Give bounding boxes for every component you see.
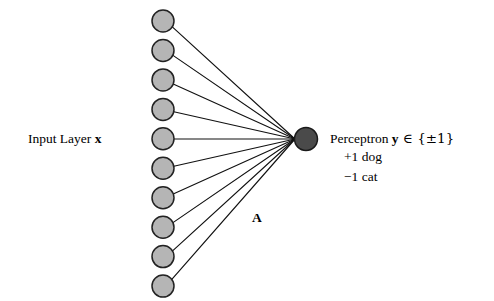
output-node-y — [295, 128, 318, 151]
input-node-x4 — [152, 98, 174, 120]
edge-x4-to-y — [174, 112, 295, 139]
input-layer-label: Input Layer x — [28, 132, 101, 146]
perceptron-suffix-text: ∈ {±1} — [399, 130, 455, 146]
perceptron-diagram: Input Layer x A Perceptron y ∈ {±1} +1 d… — [0, 0, 494, 301]
input-node-x1 — [152, 10, 174, 32]
input-node-x6 — [152, 157, 174, 179]
input-node-x8 — [152, 216, 174, 238]
output-label-block: Perceptron y ∈ {±1} +1 dog −1 cat — [330, 130, 490, 187]
edge-x1-to-y — [172, 27, 295, 139]
input-node-x5 — [152, 128, 174, 150]
weight-matrix-label: A — [252, 211, 262, 225]
perceptron-prefix-text: Perceptron — [330, 131, 392, 146]
input-node-x10 — [152, 275, 174, 297]
edge-x8-to-y — [173, 139, 295, 223]
output-node-group — [295, 128, 318, 151]
input-vector-symbol: x — [95, 131, 102, 146]
class-positive-label: +1 dog — [330, 147, 490, 167]
input-node-x3 — [152, 69, 174, 91]
input-node-x9 — [152, 246, 174, 268]
edge-x9-to-y — [172, 139, 295, 251]
edge-x10-to-y — [172, 139, 295, 279]
edge-x2-to-y — [173, 55, 295, 139]
perceptron-output-symbol: y — [392, 131, 399, 146]
input-layer-label-text: Input Layer — [28, 131, 95, 146]
edge-x7-to-y — [173, 139, 295, 194]
input-nodes-group — [152, 10, 174, 297]
input-node-x7 — [152, 187, 174, 209]
edges-group — [172, 27, 295, 279]
perceptron-label: Perceptron y ∈ {±1} — [330, 130, 490, 147]
edge-x3-to-y — [173, 84, 295, 139]
input-node-x2 — [152, 40, 174, 62]
edge-x6-to-y — [174, 139, 295, 166]
class-negative-label: −1 cat — [330, 167, 490, 187]
